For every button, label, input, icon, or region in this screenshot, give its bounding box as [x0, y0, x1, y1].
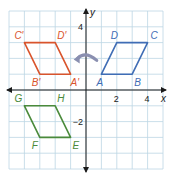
x-tick-label: 4 — [145, 94, 150, 104]
y-tick-label: 4 — [78, 22, 83, 32]
x-tick-label: 2 — [114, 94, 119, 104]
vertex-label: B — [134, 77, 141, 88]
y-axis-label: y — [89, 7, 96, 18]
x-axis-label: x — [160, 93, 167, 104]
parallelogram-abcd: ABCD — [95, 30, 158, 89]
vertex-label: D′ — [57, 30, 67, 41]
vertex-label: E — [73, 140, 80, 151]
vertex-label: B′ — [32, 77, 42, 88]
vertex-label: D — [111, 30, 118, 41]
y-tick-label: −2 — [73, 117, 83, 127]
coordinate-grid-diagram: xy244−2 ABCDA′B′C′D′EFGH — [0, 0, 175, 184]
vertex-label: H — [57, 93, 65, 104]
vertex-label: A — [95, 77, 103, 88]
reflection-arrow-icon — [74, 54, 97, 63]
vertex-label: C′ — [14, 30, 24, 41]
vertex-label: C — [151, 30, 159, 41]
arrow-head-icon — [74, 54, 80, 63]
curved-arrow-shaft — [78, 55, 97, 61]
vertex-label: F — [32, 140, 39, 151]
vertex-label: G — [14, 93, 22, 104]
vertex-label: A′ — [70, 77, 81, 88]
